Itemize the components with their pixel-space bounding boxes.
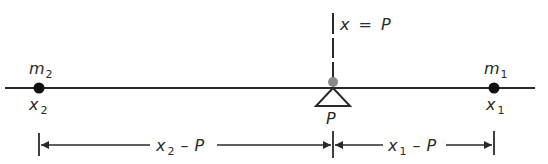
dimension-x2-minus-p: x2–P — [41, 136, 331, 158]
lever-diagram: x = P P m2 x2 m1 x1 x2–P — [0, 0, 548, 164]
position-label: x2 — [28, 95, 47, 117]
dimension-label: x2–P — [155, 136, 204, 158]
mass-label: m1 — [484, 59, 508, 81]
position-label: x1 — [485, 95, 504, 117]
pivot-equation-label: x = P — [339, 15, 391, 34]
fulcrum-triangle-icon — [316, 88, 350, 106]
mass-dot — [34, 83, 45, 94]
pivot-dot — [328, 77, 338, 87]
mass-label: m2 — [29, 59, 53, 81]
dimension-label: x1–P — [387, 136, 436, 158]
mass-dot — [489, 83, 500, 94]
dimension-x1-minus-p: x1–P — [335, 136, 492, 158]
pivot-label: P — [326, 109, 336, 128]
